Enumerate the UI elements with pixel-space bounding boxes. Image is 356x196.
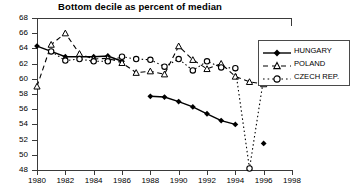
data-point xyxy=(62,30,68,36)
chart-figure: Bottom decile as percent of median 48505… xyxy=(0,0,356,196)
data-point xyxy=(147,68,153,74)
data-point xyxy=(76,51,82,57)
data-point xyxy=(190,104,196,110)
data-point xyxy=(204,59,209,64)
data-point xyxy=(133,70,139,76)
legend-key-poland-dashed-triangle xyxy=(262,58,292,70)
data-point xyxy=(91,59,96,64)
data-point xyxy=(119,54,124,59)
data-point xyxy=(204,66,210,72)
data-point xyxy=(176,99,182,105)
data-point xyxy=(261,141,267,147)
data-point xyxy=(218,65,223,70)
data-point xyxy=(162,64,167,69)
data-point xyxy=(247,166,252,171)
data-point xyxy=(133,56,138,61)
legend-key-czech-dotted-circle xyxy=(262,71,292,83)
legend-key-hungary-solid-diamond xyxy=(262,45,292,57)
data-point xyxy=(63,58,68,63)
data-point xyxy=(246,79,252,85)
data-point xyxy=(147,93,153,99)
legend-item-poland: POLAND xyxy=(262,57,347,70)
data-point xyxy=(176,43,182,49)
data-point xyxy=(105,59,110,64)
data-point xyxy=(162,94,168,100)
data-point xyxy=(190,68,195,73)
series-line xyxy=(51,51,264,168)
legend-label-poland: POLAND xyxy=(292,59,325,68)
data-point xyxy=(34,83,40,89)
series-layer xyxy=(0,0,356,196)
legend-label-hungary: HUNGARY xyxy=(292,46,332,55)
data-point xyxy=(148,57,153,62)
data-point xyxy=(233,65,238,70)
series-czech-rep xyxy=(48,49,266,171)
chart-legend: HUNGARY POLAND CZECH REP. xyxy=(258,40,350,86)
data-point xyxy=(218,118,224,124)
data-point xyxy=(204,111,210,117)
data-point xyxy=(77,56,82,61)
legend-item-czech: CZECH REP. xyxy=(262,70,347,83)
data-point xyxy=(161,71,167,77)
legend-label-czech: CZECH REP. xyxy=(292,72,339,81)
data-point xyxy=(48,49,53,54)
data-point xyxy=(176,56,181,61)
data-point xyxy=(232,122,238,128)
legend-item-hungary: HUNGARY xyxy=(262,44,347,57)
data-point xyxy=(34,43,40,49)
